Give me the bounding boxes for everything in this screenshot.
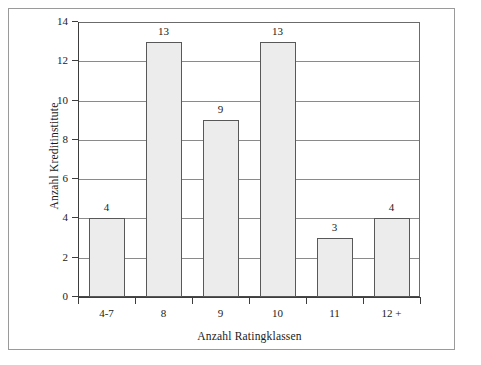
gridline xyxy=(79,218,419,219)
gridline xyxy=(79,61,419,62)
plot-area xyxy=(78,22,420,297)
y-axis-tick-label: 6 xyxy=(0,173,78,184)
y-axis-title: Anzahl Kreditinstitute xyxy=(48,76,60,236)
bar-value-label: 13 xyxy=(248,26,308,37)
gridline xyxy=(79,101,419,102)
bar-value-label: 4 xyxy=(362,202,422,213)
y-axis-tick-label: 10 xyxy=(0,95,78,106)
bar-value-label: 3 xyxy=(305,222,365,233)
y-axis-tick-label: 2 xyxy=(0,252,78,263)
x-axis-tick xyxy=(135,297,136,304)
gridline xyxy=(79,179,419,180)
x-axis-title: Anzahl Ratingklassen xyxy=(78,330,421,342)
bar-value-label: 4 xyxy=(77,202,137,213)
x-axis-tick xyxy=(420,297,421,304)
bar-value-label: 9 xyxy=(191,104,251,115)
bar xyxy=(374,218,410,297)
bar xyxy=(89,218,125,297)
bar xyxy=(203,120,239,297)
y-axis-tick-label: 8 xyxy=(0,134,78,145)
bar-value-label: 13 xyxy=(134,26,194,37)
gridline xyxy=(79,140,419,141)
y-axis-tick-label: 12 xyxy=(0,55,78,66)
y-axis-line xyxy=(78,22,79,298)
figure-container: 02468101214 4-789101112 + 41391334 Anzah… xyxy=(0,0,481,365)
bar xyxy=(317,238,353,297)
x-axis-tick xyxy=(192,297,193,304)
x-axis-tick xyxy=(78,297,79,304)
x-axis-tick xyxy=(249,297,250,304)
gridline xyxy=(79,258,419,259)
bar xyxy=(146,42,182,297)
y-axis-tick-label: 14 xyxy=(0,16,78,27)
bar xyxy=(260,42,296,297)
x-axis-tick xyxy=(306,297,307,304)
y-axis-tick-label: 0 xyxy=(0,291,78,302)
y-axis-tick-label: 4 xyxy=(0,212,78,223)
x-axis-tick-label: 12 + xyxy=(352,308,432,319)
x-axis-tick xyxy=(363,297,364,304)
